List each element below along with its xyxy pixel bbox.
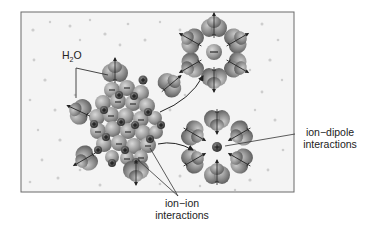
diagram: H2O ion−ion interactions ion−dipole inte… — [0, 0, 368, 226]
ion-dipole-label-line1: ion−dipole — [292, 126, 368, 138]
ion-ion-label-line1: ion−ion — [142, 197, 222, 209]
ion-dipole-label-line2: interactions — [292, 138, 368, 150]
ion-ion-label: ion−ion interactions — [142, 197, 222, 221]
solution-box — [21, 12, 294, 192]
ion-ion-label-line2: interactions — [142, 209, 222, 221]
h2o-label: H2O — [62, 49, 82, 63]
ion-dipole-label: ion−dipole interactions — [292, 126, 368, 150]
